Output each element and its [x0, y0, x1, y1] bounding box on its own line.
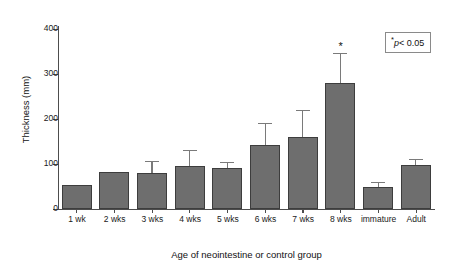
x-tick-mark [265, 209, 266, 213]
y-tick-label: 300 [12, 69, 58, 78]
error-bar [151, 162, 152, 173]
bar [325, 83, 355, 209]
bar-group: *8 wks [322, 26, 360, 209]
y-tick-label: 400 [12, 24, 58, 33]
x-tick-mark [76, 209, 77, 213]
bar-group: 2 wks [96, 26, 134, 209]
error-bar-cap [296, 110, 310, 111]
error-bar-cap [220, 162, 234, 163]
y-tick-label: 200 [12, 114, 58, 123]
bar [212, 168, 242, 209]
significance-legend: *p< 0.05 [385, 32, 431, 53]
x-tick-mark [302, 209, 303, 213]
bar [288, 137, 318, 209]
error-bar [265, 124, 266, 145]
bar-group: 3 wks [133, 26, 171, 209]
y-tick-label: 100 [12, 159, 58, 168]
error-bar [302, 111, 303, 137]
x-tick-mark [416, 209, 417, 213]
bar [137, 173, 167, 209]
error-bar [189, 151, 190, 166]
y-tick-label: 0 [12, 204, 58, 213]
error-bar [415, 160, 416, 165]
plot-area: 1 wk2 wks3 wks4 wks5 wks6 wks7 wks*8 wks… [58, 26, 435, 209]
error-bar-cap [409, 159, 423, 160]
x-tick-label: Adult [391, 215, 441, 224]
bar [62, 185, 92, 209]
bar [401, 165, 431, 209]
x-tick-mark [378, 209, 379, 213]
x-tick-mark [340, 209, 341, 213]
x-tick-mark [227, 209, 228, 213]
bar [175, 166, 205, 209]
error-bar [227, 163, 228, 169]
bar [363, 187, 393, 209]
error-bar [378, 183, 379, 187]
error-bar-cap [371, 182, 385, 183]
legend-comparison: < 0.05 [399, 38, 424, 48]
x-tick-mark [152, 209, 153, 213]
bar-group: 5 wks [209, 26, 247, 209]
bar [99, 172, 129, 209]
bar-chart-figure: Thickness (mm) 0 100 200 300 400 1 wk2 w… [0, 0, 466, 273]
x-axis-title: Age of neointestine or control group [58, 249, 435, 260]
error-bar-cap [258, 123, 272, 124]
error-bar-cap [145, 161, 159, 162]
error-bar [340, 54, 341, 82]
bar-group: 4 wks [171, 26, 209, 209]
x-tick-mark [189, 209, 190, 213]
x-tick-mark [114, 209, 115, 213]
error-bar-cap [183, 150, 197, 151]
bar-group: 7 wks [284, 26, 322, 209]
bar-group: 1 wk [58, 26, 96, 209]
bar-group: Adult [397, 26, 435, 209]
significance-asterisk: * [322, 41, 360, 52]
bar-group: 6 wks [247, 26, 285, 209]
error-bar-cap [333, 53, 347, 54]
bar [250, 145, 280, 209]
bar-group: immature [360, 26, 398, 209]
